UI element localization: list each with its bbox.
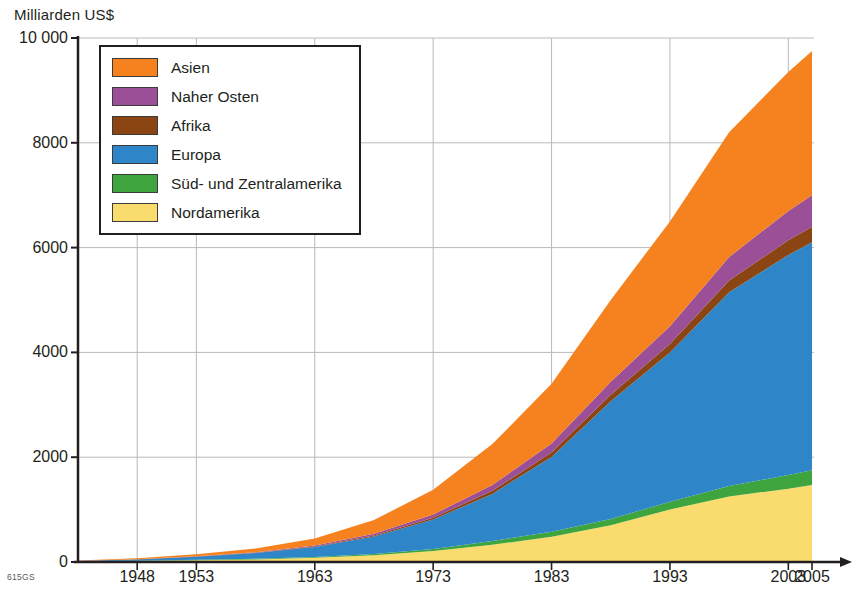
legend-color-swatch xyxy=(112,87,158,106)
legend-item[interactable]: Naher Osten xyxy=(112,87,359,106)
x-axis-arrow-icon xyxy=(840,557,852,567)
legend-item-label: Afrika xyxy=(171,117,211,135)
chart-legend: AsienNaher OstenAfrikaEuropaSüd- und Zen… xyxy=(99,45,361,235)
legend-color-swatch xyxy=(112,203,158,222)
legend-item[interactable]: Asien xyxy=(112,58,359,77)
legend-item-label: Süd- und Zentralamerika xyxy=(171,175,342,193)
legend-item-label: Asien xyxy=(171,59,210,77)
y-axis-tick-label: 6000 xyxy=(0,239,68,257)
x-axis-tick-label: 1973 xyxy=(415,568,451,586)
x-axis-tick-label: 1983 xyxy=(534,568,570,586)
y-axis-tick-label: 4000 xyxy=(0,343,68,361)
chart-container: Milliarden US$ 0200040006000800010 000 1… xyxy=(0,0,854,602)
legend-item[interactable]: Afrika xyxy=(112,116,359,135)
legend-item-label: Nordamerika xyxy=(171,204,260,222)
y-axis-tick-label: 2000 xyxy=(0,448,68,466)
legend-color-swatch xyxy=(112,116,158,135)
x-axis-tick-label: 1948 xyxy=(119,568,155,586)
y-axis-tick-label: 8000 xyxy=(0,134,68,152)
y-axis-tick-label: 10 000 xyxy=(0,29,68,47)
legend-color-swatch xyxy=(112,145,158,164)
x-axis-tick-label: 2005 xyxy=(794,568,830,586)
legend-color-swatch xyxy=(112,58,158,77)
legend-item-label: Europa xyxy=(171,146,221,164)
legend-item[interactable]: Süd- und Zentralamerika xyxy=(112,174,359,193)
y-axis-tick-label: 0 xyxy=(0,553,68,571)
legend-item-label: Naher Osten xyxy=(171,88,259,106)
x-axis-tick-label: 1993 xyxy=(652,568,688,586)
legend-color-swatch xyxy=(112,174,158,193)
legend-item[interactable]: Nordamerika xyxy=(112,203,359,222)
x-axis-tick-label: 1953 xyxy=(179,568,215,586)
source-code-label: 615GS xyxy=(7,572,35,582)
x-axis-tick-label: 1963 xyxy=(297,568,333,586)
legend-item[interactable]: Europa xyxy=(112,145,359,164)
